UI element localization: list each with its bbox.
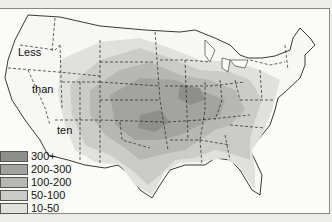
legend-swatch [0,203,28,214]
legend-swatch [0,151,28,162]
legend-label: 100-200 [31,176,71,189]
legend-item: 50-100 [0,189,71,202]
legend-label: 50-100 [31,189,65,202]
legend-label: 10-50 [31,202,59,215]
map-label-less: Less [18,46,41,58]
legend-swatch [0,164,28,175]
legend-swatch [0,190,28,201]
legend-swatch [0,177,28,188]
legend-item: 200-300 [0,163,71,176]
legend-item: 100-200 [0,176,71,189]
legend-label: 300+ [31,150,56,163]
legend-item: 300+ [0,150,71,163]
legend-label: 200-300 [31,163,71,176]
map-label-ten: ten [57,124,72,136]
legend: 300+ 200-300 100-200 50-100 10-50 [0,150,71,215]
map-label-than: than [32,83,53,95]
legend-item: 10-50 [0,202,71,215]
